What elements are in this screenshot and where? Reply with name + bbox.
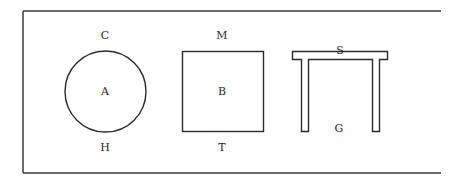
square-below-label: T xyxy=(218,141,226,154)
diagram-canvas: C A H M B T S G xyxy=(0,0,463,182)
circle-figure: C A H xyxy=(65,29,146,154)
diagram-svg: C A H M B T S G xyxy=(0,0,463,182)
square-above-label: M xyxy=(216,29,227,42)
circle-below-label: H xyxy=(100,141,110,154)
table-top-label: S xyxy=(336,44,344,57)
frame xyxy=(23,11,441,173)
circle-center-label: A xyxy=(100,85,110,98)
square-figure: M B T xyxy=(183,29,264,154)
circle-above-label: C xyxy=(101,29,109,42)
square-center-label: B xyxy=(218,85,226,98)
table-bottom-label: G xyxy=(335,122,344,135)
table-shape xyxy=(293,52,388,132)
table-figure: S G xyxy=(293,44,388,135)
